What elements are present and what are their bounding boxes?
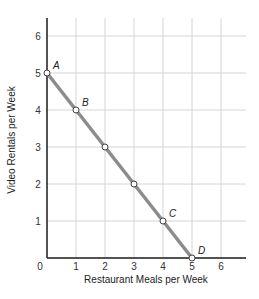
point-labels: ABCD: [52, 60, 205, 256]
x-tick-label: 5: [189, 261, 195, 272]
data-point-marker: [160, 218, 166, 224]
point-label-b: B: [82, 97, 89, 108]
point-label-d: D: [198, 245, 205, 256]
point-label-a: A: [52, 60, 60, 71]
x-tick-label: 1: [73, 261, 79, 272]
x-tick-label: 2: [102, 261, 108, 272]
data-point-marker: [73, 107, 79, 113]
y-tick-label: 4: [35, 105, 41, 116]
y-tick-label: 2: [35, 179, 41, 190]
data-point-marker: [102, 144, 108, 150]
tick-labels: 0123456123456: [35, 31, 224, 272]
y-tick-label: 5: [35, 68, 41, 79]
series: [44, 70, 195, 261]
budget-line-chart: 0123456123456 ABCD Restaurant Meals per …: [0, 0, 259, 299]
data-point-marker: [189, 255, 195, 261]
x-tick-label: 0: [37, 261, 43, 272]
x-tick-label: 4: [160, 261, 166, 272]
data-point-marker: [44, 70, 50, 76]
y-axis-label: Video Rentals per Week: [6, 85, 17, 193]
x-tick-label: 6: [218, 261, 224, 272]
data-point-marker: [131, 181, 137, 187]
y-tick-label: 6: [35, 31, 41, 42]
axes: [47, 18, 246, 258]
x-axis-label: Restaurant Meals per Week: [84, 274, 209, 285]
budget-line: [47, 73, 192, 258]
point-label-c: C: [169, 208, 177, 219]
y-tick-label: 3: [35, 142, 41, 153]
grid: [47, 18, 246, 258]
y-tick-label: 1: [35, 216, 41, 227]
x-tick-label: 3: [131, 261, 137, 272]
